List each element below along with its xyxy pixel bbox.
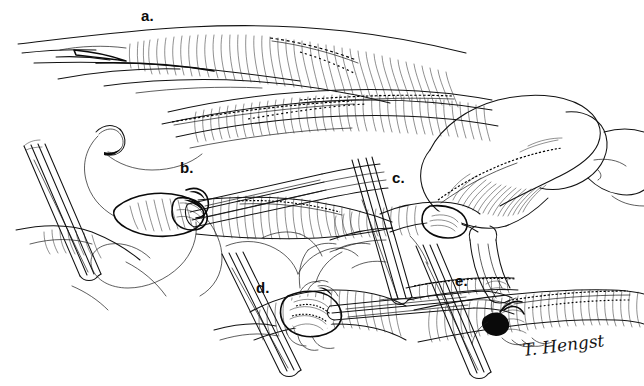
illustration-canvas: .ln { fill:none; stroke:#121212; stroke-… xyxy=(0,0,644,386)
panel-label-b: b. xyxy=(180,160,194,175)
panel-label-e: e. xyxy=(455,273,468,288)
panel-label-d: d. xyxy=(256,280,270,295)
panel-label-a: a. xyxy=(141,8,154,23)
surgical-illustration-figure: .ln { fill:none; stroke:#121212; stroke-… xyxy=(0,0,644,386)
panel-label-c: c. xyxy=(392,170,405,185)
